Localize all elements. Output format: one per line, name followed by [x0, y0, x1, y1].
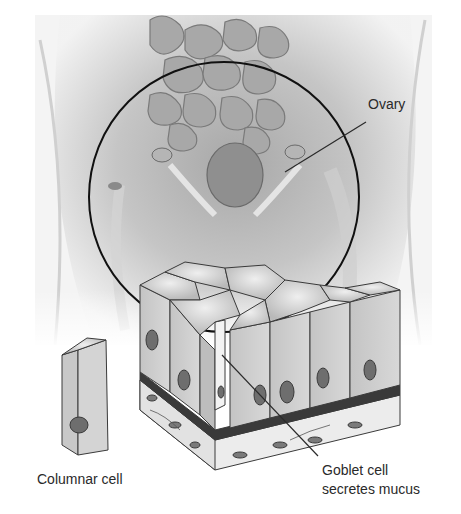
isolated-columnar-cell — [62, 338, 108, 455]
goblet-cell-label: Goblet cell — [322, 462, 388, 479]
left-ovary — [152, 148, 172, 162]
columnar-cell-label: Columnar cell — [37, 471, 123, 488]
uterus — [207, 143, 263, 207]
figure-canvas — [0, 0, 461, 514]
ovary-label: Ovary — [368, 96, 405, 113]
right-ovary — [285, 145, 305, 159]
anatomy-figure: Ovary Columnar cell Goblet cell secretes… — [0, 0, 461, 514]
goblet-cell-sublabel: secretes mucus — [322, 481, 420, 498]
epithelium-block — [140, 262, 400, 470]
